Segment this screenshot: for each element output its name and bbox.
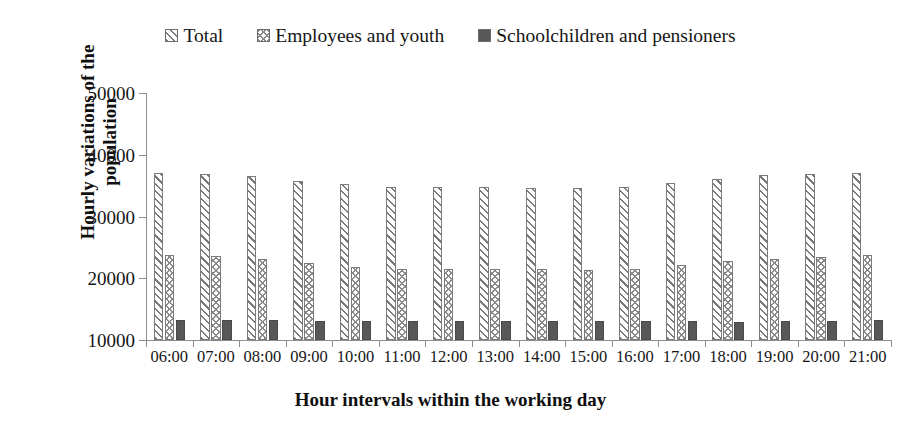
x-axis-tick-label: 08:00	[244, 349, 282, 366]
y-axis-tick	[139, 217, 146, 218]
bar-employees-and-youth-1500	[584, 270, 594, 340]
bar-schoolchildren-and-pensioners-1200	[455, 321, 465, 340]
bar-employees-and-youth-1700	[677, 265, 687, 340]
legend-swatch-total-icon	[165, 29, 178, 42]
x-axis-title: Hour intervals within the working day	[0, 390, 901, 409]
x-axis-tick-label: 11:00	[384, 349, 421, 366]
x-axis-tick-label: 14:00	[523, 349, 561, 366]
bar-schoolchildren-and-pensioners-1100	[408, 321, 418, 340]
bar-employees-and-youth-1800	[723, 261, 733, 340]
bar-schoolchildren-and-pensioners-0800	[269, 320, 279, 340]
x-axis-tick-label: 09:00	[290, 349, 328, 366]
bar-total-1900	[759, 175, 769, 340]
x-axis-tick	[844, 340, 845, 347]
legend-label-schoolchildren-and-pensioners: Schoolchildren and pensioners	[496, 26, 735, 46]
x-axis-tick	[705, 340, 706, 347]
x-axis-tick-label: 12:00	[430, 349, 468, 366]
bar-employees-and-youth-1100	[397, 269, 407, 340]
legend-item-total: Total	[165, 26, 223, 46]
bar-employees-and-youth-2100	[863, 255, 873, 340]
x-axis-tick	[751, 340, 752, 347]
x-axis-tick-label: 07:00	[197, 349, 235, 366]
x-axis-tick	[798, 340, 799, 347]
bar-schoolchildren-and-pensioners-1000	[362, 321, 372, 340]
x-axis-tick	[472, 340, 473, 347]
y-axis-tick	[139, 155, 146, 156]
x-axis-tick	[379, 340, 380, 347]
x-axis-tick	[146, 340, 147, 347]
bar-schoolchildren-and-pensioners-0900	[315, 321, 325, 340]
bar-total-1500	[573, 188, 583, 340]
bar-employees-and-youth-0600	[165, 255, 175, 340]
legend-label-employees-and-youth: Employees and youth	[275, 26, 444, 46]
x-axis-tick	[239, 340, 240, 347]
bar-employees-and-youth-0700	[211, 256, 221, 340]
bar-total-1100	[386, 187, 396, 340]
bar-employees-and-youth-2000	[816, 257, 826, 340]
x-axis-tick-label: 10:00	[337, 349, 375, 366]
legend-item-employees-and-youth: Employees and youth	[257, 26, 444, 46]
bar-total-2000	[805, 174, 815, 340]
bar-total-1200	[433, 187, 443, 340]
x-axis-tick	[565, 340, 566, 347]
bar-total-2100	[852, 173, 862, 340]
bar-total-0700	[200, 174, 210, 340]
bar-schoolchildren-and-pensioners-1400	[548, 321, 558, 340]
legend-item-schoolchildren-and-pensioners: Schoolchildren and pensioners	[478, 26, 735, 46]
bar-employees-and-youth-1900	[770, 259, 780, 340]
bar-employees-and-youth-0800	[258, 259, 268, 340]
y-axis-tick-label: 20000	[88, 269, 136, 288]
bar-total-0900	[293, 181, 303, 340]
bar-total-1700	[666, 183, 676, 340]
bar-schoolchildren-and-pensioners-1700	[688, 321, 698, 340]
bar-schoolchildren-and-pensioners-1300	[501, 321, 511, 340]
bar-schoolchildren-and-pensioners-1600	[641, 321, 651, 340]
y-axis-tick-label: 30000	[88, 207, 136, 226]
x-axis-tick	[519, 340, 520, 347]
x-axis-tick-label: 13:00	[476, 349, 514, 366]
legend-label-total: Total	[183, 26, 223, 46]
x-axis-tick	[425, 340, 426, 347]
bar-total-1600	[619, 187, 629, 340]
bar-total-0600	[154, 173, 164, 340]
bar-schoolchildren-and-pensioners-0600	[176, 320, 186, 340]
bar-schoolchildren-and-pensioners-1800	[734, 322, 744, 340]
chart-legend: Total Employees and youth Schoolchildren…	[0, 26, 901, 46]
bar-schoolchildren-and-pensioners-0700	[222, 320, 232, 340]
bar-schoolchildren-and-pensioners-2100	[874, 320, 884, 340]
y-axis-line	[146, 93, 147, 340]
x-axis-tick	[891, 340, 892, 347]
bar-employees-and-youth-0900	[304, 263, 314, 340]
bar-total-1400	[526, 188, 536, 340]
x-axis-tick	[658, 340, 659, 347]
y-axis-tick-label: 10000	[88, 331, 136, 350]
legend-swatch-schoolchildren-and-pensioners-icon	[478, 29, 491, 42]
bar-employees-and-youth-1600	[630, 269, 640, 340]
bar-schoolchildren-and-pensioners-1500	[595, 321, 605, 340]
y-axis-tick	[139, 278, 146, 279]
x-axis-tick	[193, 340, 194, 347]
x-axis-tick-label: 06:00	[150, 349, 188, 366]
bar-total-1300	[479, 187, 489, 340]
bar-schoolchildren-and-pensioners-1900	[781, 321, 791, 340]
x-axis-tick	[332, 340, 333, 347]
bar-employees-and-youth-1200	[444, 269, 454, 340]
bar-employees-and-youth-1000	[351, 267, 361, 340]
bar-employees-and-youth-1400	[537, 269, 547, 340]
x-axis-tick	[612, 340, 613, 347]
x-axis-tick-label: 20:00	[802, 349, 840, 366]
y-axis-tick	[139, 93, 146, 94]
bar-schoolchildren-and-pensioners-2000	[827, 321, 837, 340]
x-axis-tick-label: 16:00	[616, 349, 654, 366]
bar-total-0800	[247, 176, 257, 340]
legend-swatch-employees-and-youth-icon	[257, 29, 270, 42]
chart-plot-area: 1000020000300004000050000 06:0007:0008:0…	[146, 93, 891, 340]
x-axis-tick-label: 17:00	[663, 349, 701, 366]
bar-total-1800	[712, 179, 722, 340]
x-axis-tick-label: 21:00	[849, 349, 887, 366]
x-axis-tick-label: 19:00	[756, 349, 794, 366]
x-axis-tick	[286, 340, 287, 347]
x-axis-tick-label: 18:00	[709, 349, 747, 366]
y-axis-tick-label: 50000	[88, 84, 136, 103]
bar-total-1000	[340, 184, 350, 340]
